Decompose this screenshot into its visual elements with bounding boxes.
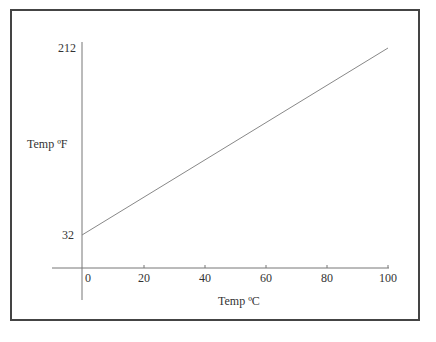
data-line	[82, 48, 388, 235]
x-tick-0: 0	[85, 271, 91, 286]
x-tick-40: 40	[199, 271, 211, 286]
x-tick-20: 20	[138, 271, 150, 286]
x-tick-80: 80	[321, 271, 333, 286]
x-axis-label: Temp ºC	[218, 294, 260, 309]
y-tick-32: 32	[62, 228, 74, 243]
y-tick-212: 212	[58, 41, 76, 56]
x-tick-60: 60	[260, 271, 272, 286]
y-axis-label: Temp ºF	[27, 137, 68, 152]
x-tick-100: 100	[379, 271, 397, 286]
